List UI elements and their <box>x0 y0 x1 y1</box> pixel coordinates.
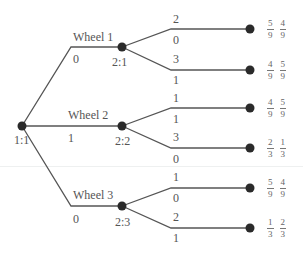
payoff: 49 59 <box>267 98 286 119</box>
branch-bottom: 1 <box>173 232 179 244</box>
branch-bottom: 0 <box>173 34 179 46</box>
wheel1-node <box>118 43 127 52</box>
wheel1-name: Wheel 1 <box>73 31 113 43</box>
wheel1-edge-value: 0 <box>73 53 79 65</box>
branch-bottom: 0 <box>173 153 179 165</box>
payoff: 59 49 <box>267 178 286 199</box>
wheel1-node-label: 2:1 <box>112 56 127 68</box>
wheel2-node <box>118 122 127 131</box>
wheel2-node-label: 2:2 <box>115 135 130 147</box>
payoff: 49 59 <box>267 60 286 81</box>
game-tree-edges <box>0 0 303 254</box>
payoff: 13 23 <box>267 218 286 239</box>
payoff: 59 49 <box>267 19 286 40</box>
payoff: 23 13 <box>267 138 286 159</box>
branch-bottom: 0 <box>173 192 179 204</box>
branch-top: 3 <box>173 131 179 143</box>
wheel3-node-label: 2:3 <box>115 216 130 228</box>
branch-top: 2 <box>173 13 179 25</box>
branch-top: 1 <box>173 92 179 104</box>
wheel3-edge-value: 0 <box>73 213 79 225</box>
wheel3-node <box>118 202 127 211</box>
wheel2-edge-value: 1 <box>68 132 74 144</box>
wheel3-name: Wheel 3 <box>73 189 113 201</box>
branch-top: 3 <box>173 53 179 65</box>
wheel2-name: Wheel 2 <box>68 109 108 121</box>
branch-bottom: 1 <box>173 113 179 125</box>
branch-top: 2 <box>173 211 179 223</box>
root-node <box>18 122 27 131</box>
branch-bottom: 1 <box>173 74 179 86</box>
branch-top: 1 <box>173 171 179 183</box>
root-label: 1:1 <box>14 134 29 146</box>
